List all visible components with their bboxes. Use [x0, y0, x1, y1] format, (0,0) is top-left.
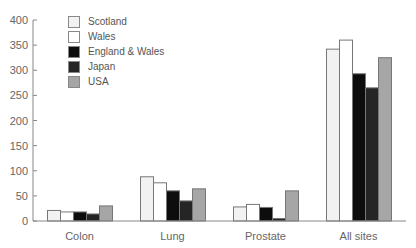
y-tick-label: 300 [10, 64, 28, 76]
x-axis: ColonLungProstateAll sites [33, 221, 406, 242]
x-category-label: Lung [160, 230, 184, 242]
legend-label: Japan [88, 61, 115, 72]
y-tick-label: 150 [10, 140, 28, 152]
bar-usa-colon [100, 206, 113, 221]
legend-swatch-england-wales [68, 46, 80, 58]
legend-label: Scotland [88, 16, 127, 27]
y-tick-label: 100 [10, 165, 28, 177]
y-tick-label: 200 [10, 115, 28, 127]
bar-usa-prostate [286, 191, 299, 221]
bar-usa-lung [193, 189, 206, 221]
y-tick-label: 400 [10, 14, 28, 26]
legend-item-wales: Wales [68, 29, 164, 44]
x-category-label: All sites [340, 230, 378, 242]
bar-chart: 050100150200250300350400 ColonLungProsta… [0, 0, 416, 248]
legend-swatch-usa [68, 76, 80, 88]
legend-label: England & Wales [88, 46, 164, 57]
legend-swatch-japan [68, 61, 80, 73]
bar-wales-prostate [247, 204, 260, 221]
x-category-label: Prostate [245, 230, 286, 242]
bar-england-wales-lung [167, 191, 180, 221]
legend-item-japan: Japan [68, 59, 164, 74]
bar-england-wales-colon [74, 212, 87, 221]
legend-swatch-scotland [68, 16, 80, 28]
y-tick-label: 350 [10, 39, 28, 51]
legend-item-scotland: Scotland [68, 14, 164, 29]
y-tick-label: 0 [22, 215, 28, 227]
bar-japan-all-sites [366, 88, 379, 221]
bar-england-wales-all-sites [353, 74, 366, 221]
bar-scotland-lung [141, 177, 154, 221]
bar-scotland-colon [48, 210, 61, 221]
bar-usa-all-sites [379, 58, 392, 221]
bar-scotland-prostate [234, 207, 247, 221]
bar-england-wales-prostate [260, 207, 273, 221]
x-category-label: Colon [65, 230, 94, 242]
legend-item-england-wales: England & Wales [68, 44, 164, 59]
legend-item-usa: USA [68, 74, 164, 89]
y-tick-label: 50 [16, 190, 28, 202]
bar-scotland-all-sites [327, 49, 340, 221]
legend-label: USA [88, 76, 109, 87]
y-tick-label: 250 [10, 89, 28, 101]
legend: Scotland Wales England & Wales Japan USA [68, 14, 164, 89]
bar-japan-colon [87, 214, 100, 221]
bar-wales-all-sites [340, 40, 353, 221]
legend-swatch-wales [68, 31, 80, 43]
bar-wales-lung [154, 183, 167, 221]
legend-label: Wales [88, 31, 115, 42]
y-axis: 050100150200250300350400 [10, 14, 37, 227]
bar-japan-lung [180, 201, 193, 221]
bar-wales-colon [61, 212, 74, 221]
